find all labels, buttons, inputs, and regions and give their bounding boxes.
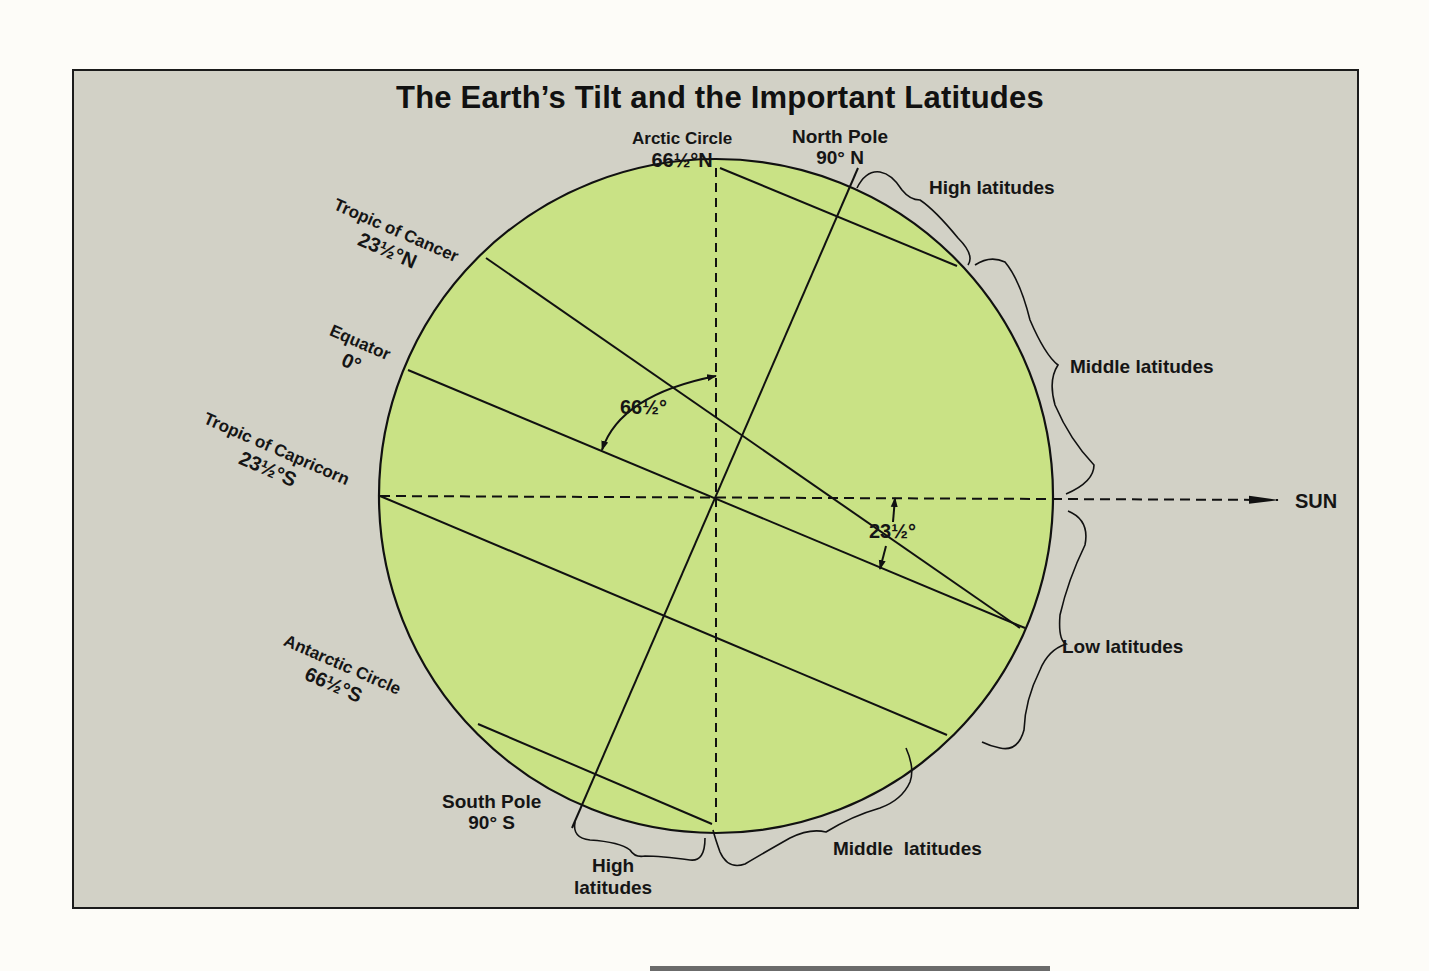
south-pole-value: 90° S bbox=[442, 813, 541, 834]
tilt-angle-label: 23½° bbox=[869, 520, 916, 543]
high-latitudes-south-label: High latitudes bbox=[574, 855, 652, 899]
high-latitudes-south-line2: latitudes bbox=[574, 877, 652, 899]
middle-latitudes-south-label: Middle latitudes bbox=[833, 838, 982, 860]
north-pole-label: North Pole 90° N bbox=[792, 127, 888, 169]
north-pole-value: 90° N bbox=[792, 148, 888, 169]
sun-label: SUN bbox=[1295, 490, 1337, 513]
arctic-circle-value: 66½°N bbox=[632, 149, 732, 171]
high-latitudes-north-label: High latitudes bbox=[929, 177, 1055, 199]
north-pole-name: North Pole bbox=[792, 127, 888, 148]
middle-latitudes-north-label: Middle latitudes bbox=[1070, 356, 1214, 378]
low-latitudes-label: Low latitudes bbox=[1062, 636, 1183, 658]
high-latitudes-south-line1: High bbox=[574, 855, 652, 877]
arctic-circle-label: Arctic Circle 66½°N bbox=[632, 130, 732, 171]
axis-angle-label: 66½° bbox=[620, 396, 667, 419]
south-pole-label: South Pole 90° S bbox=[442, 792, 541, 834]
south-pole-name: South Pole bbox=[442, 792, 541, 813]
arctic-circle-name: Arctic Circle bbox=[632, 130, 732, 149]
page-edge-shadow bbox=[650, 966, 1050, 971]
